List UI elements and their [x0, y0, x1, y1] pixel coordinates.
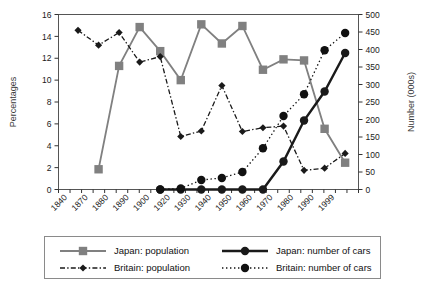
y-right-tick-label: 0 [366, 185, 371, 195]
data-point-marker [279, 55, 287, 63]
data-point-marker [259, 66, 267, 74]
x-axis-tick-label: 1890 [110, 192, 131, 213]
x-axis-tick-label: 1920 [151, 192, 172, 213]
plot-area-frame [59, 15, 359, 190]
y-right-tick-label: 500 [366, 10, 380, 20]
legend-label: Japan: population [114, 245, 189, 256]
data-point-marker [177, 76, 185, 84]
series-3 [156, 29, 349, 194]
data-point-marker [116, 29, 123, 36]
data-point-marker [156, 185, 164, 193]
y-left-tick-label: 2 [47, 163, 52, 173]
series-layer [74, 20, 349, 194]
x-axis-tick-label: 1990 [295, 192, 316, 213]
data-point-marker [259, 124, 266, 131]
legend-item[interactable]: Britain: population [60, 262, 190, 273]
legend-label: Britain: population [114, 262, 190, 273]
y-left-tick-label: 4 [47, 141, 52, 151]
data-point-marker [320, 46, 328, 54]
x-axis-tick-label: 1950 [213, 192, 234, 213]
data-point-marker [218, 174, 226, 182]
y-left-tick-label: 14 [42, 32, 52, 42]
x-axis-tick-label: 1940 [193, 192, 214, 213]
series-line [78, 30, 345, 170]
y-right-tick-label: 200 [366, 115, 380, 125]
data-point-marker [300, 167, 307, 174]
data-point-marker [341, 159, 349, 167]
y-axis-right-ticks: 050100150200250300350400450500 [359, 10, 380, 195]
series-line [160, 33, 345, 189]
y-axis-left-title: Percentages [8, 76, 18, 127]
data-point-marker [136, 59, 143, 66]
data-point-marker [218, 39, 226, 47]
y-right-tick-label: 450 [366, 27, 380, 37]
legend-entries: Japan: populationJapan: number of carsBr… [60, 245, 372, 273]
y-right-tick-label: 300 [366, 80, 380, 90]
y-left-tick-label: 6 [47, 119, 52, 129]
data-point-marker [198, 127, 205, 134]
data-point-marker [241, 247, 249, 255]
series-0 [94, 20, 349, 173]
y-axis-left-ticks: 0246810121416 [42, 10, 58, 195]
y-left-tick-label: 0 [47, 185, 52, 195]
legend-item[interactable]: Japan: number of cars [222, 245, 371, 256]
data-point-marker [320, 87, 328, 95]
data-point-marker [135, 23, 143, 31]
data-point-marker [94, 165, 102, 173]
data-point-marker [259, 144, 267, 152]
y-right-tick-label: 150 [366, 132, 380, 142]
x-axis-tick-label: 1970 [254, 192, 275, 213]
legend-label: Britain: number of cars [276, 262, 372, 273]
legend-item[interactable]: Britain: number of cars [222, 262, 372, 273]
data-point-marker [197, 20, 205, 28]
y-right-tick-label: 250 [366, 97, 380, 107]
data-point-marker [341, 49, 349, 57]
data-point-marker [300, 56, 308, 64]
x-axis-tick-label: 1980 [275, 192, 296, 213]
y-left-tick-label: 16 [42, 10, 52, 20]
data-point-marker [241, 264, 249, 272]
x-axis-tick-label: 1840 [49, 192, 70, 213]
y-axis-right-title: Number (000s) [406, 72, 416, 132]
data-point-marker [177, 133, 184, 140]
data-point-marker [177, 184, 185, 192]
data-point-marker [280, 122, 287, 129]
data-point-marker [300, 90, 308, 98]
data-point-marker [218, 185, 226, 193]
x-axis-labels: 1840187018801890190019201930194019501960… [49, 192, 337, 213]
data-point-marker [218, 82, 225, 89]
data-point-marker [239, 128, 246, 135]
data-point-marker [300, 116, 308, 124]
y-right-tick-label: 400 [366, 45, 380, 55]
data-point-marker [79, 264, 86, 271]
y-right-tick-label: 50 [366, 167, 376, 177]
y-right-tick-label: 350 [366, 62, 380, 72]
x-axis-tick-label: 1999 [316, 192, 337, 213]
legend-label: Japan: number of cars [276, 245, 371, 256]
data-point-marker [320, 125, 328, 133]
data-point-marker [259, 185, 267, 193]
chart-canvas: 0246810121416 05010015020025030035040045… [0, 0, 426, 286]
x-axis-tick-label: 1930 [172, 192, 193, 213]
data-point-marker [279, 157, 287, 165]
data-point-marker [79, 247, 87, 255]
data-point-marker [197, 185, 205, 193]
y-left-tick-label: 8 [47, 97, 52, 107]
data-point-marker [341, 29, 349, 37]
data-point-marker [279, 112, 287, 120]
chart-figure: 0246810121416 05010015020025030035040045… [0, 0, 426, 286]
x-axis-tick-label: 1900 [131, 192, 152, 213]
data-point-marker [115, 62, 123, 70]
data-point-marker [197, 176, 205, 184]
y-right-tick-label: 100 [366, 150, 380, 160]
data-point-marker [238, 22, 246, 30]
data-point-marker [238, 168, 246, 176]
y-left-tick-label: 12 [42, 53, 52, 63]
legend-item[interactable]: Japan: population [60, 245, 189, 256]
x-axis-tick-label: 1880 [90, 192, 111, 213]
series-1 [74, 27, 348, 174]
data-point-marker [238, 185, 246, 193]
y-left-tick-label: 10 [42, 75, 52, 85]
x-axis-tick-label: 1870 [69, 192, 90, 213]
x-axis-tick-label: 1960 [234, 192, 255, 213]
